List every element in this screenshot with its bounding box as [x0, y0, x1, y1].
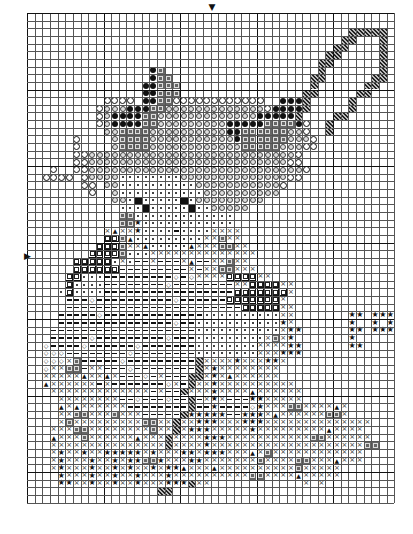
stitch-dash	[203, 304, 211, 312]
stitch-dash	[149, 296, 157, 304]
stitch-dark-square	[218, 235, 226, 243]
stitch-dash	[218, 304, 226, 312]
stitch-dash	[157, 258, 165, 266]
stitch-dash	[165, 265, 173, 273]
stitch-cross	[218, 396, 226, 404]
stitch-gray-circle	[188, 166, 196, 174]
stitch-dot-square	[88, 273, 96, 281]
stitch-dot-square	[195, 204, 203, 212]
stitch-gray-circle	[211, 189, 219, 197]
stitch-dark-square	[264, 120, 272, 128]
stitch-dash	[157, 357, 165, 365]
stitch-dark-square	[272, 135, 280, 143]
stitch-cross	[50, 388, 58, 396]
stitch-gray-circle	[180, 105, 188, 113]
stitch-dash	[157, 350, 165, 358]
stitch-open-circle	[73, 143, 81, 151]
stitch-gray-circle	[180, 135, 188, 143]
grid-line-vertical	[394, 13, 395, 503]
grid-line-horizontal	[27, 373, 394, 374]
stitch-gray-circle	[241, 151, 249, 159]
stitch-dark-square	[287, 120, 295, 128]
stitch-dash	[134, 304, 142, 312]
stitch-open-circle	[81, 174, 89, 182]
stitch-diamond	[165, 281, 173, 289]
stitch-dot-square	[134, 189, 142, 197]
stitch-dark-square	[126, 212, 134, 220]
stitch-dark-square	[172, 90, 180, 98]
stitch-dash	[172, 365, 180, 373]
stitch-cross	[257, 449, 265, 457]
grid-line-horizontal	[27, 250, 394, 251]
stitch-cross	[249, 441, 257, 449]
stitch-dash	[172, 288, 180, 296]
stitch-hatched	[157, 487, 165, 495]
stitch-gray-circle	[172, 128, 180, 136]
stitch-dash	[96, 334, 104, 342]
stitch-dash	[104, 296, 112, 304]
stitch-dot-square	[165, 189, 173, 197]
stitch-dash	[119, 342, 127, 350]
stitch-dash	[172, 327, 180, 335]
stitch-gray-circle	[104, 158, 112, 166]
stitch-dot-square	[81, 288, 89, 296]
stitch-hatched	[333, 51, 341, 59]
stitch-dot-square	[195, 350, 203, 358]
stitch-dash	[172, 304, 180, 312]
stitch-cross	[279, 281, 287, 289]
stitch-dash	[126, 288, 134, 296]
stitch-dash	[65, 304, 73, 312]
stitch-dark-square	[119, 212, 127, 220]
stitch-filled-black-circle	[287, 112, 295, 120]
stitch-gray-circle	[111, 158, 119, 166]
stitch-gray-circle	[172, 105, 180, 113]
stitch-dot-square	[180, 235, 188, 243]
stitch-dash	[111, 281, 119, 289]
stitch-dark-square	[119, 143, 127, 151]
stitch-cross	[195, 250, 203, 258]
stitch-open-circle	[104, 97, 112, 105]
stitch-dash	[218, 281, 226, 289]
stitch-dot-square	[81, 281, 89, 289]
stitch-gray-circle	[211, 105, 219, 113]
stitch-gray-circle	[218, 120, 226, 128]
stitch-dash	[234, 396, 242, 404]
stitch-dot-square	[234, 311, 242, 319]
stitch-gray-circle	[249, 105, 257, 113]
stitch-gray-circle	[188, 135, 196, 143]
stitch-dot-square	[172, 174, 180, 182]
stitch-dash	[81, 319, 89, 327]
grid-line-horizontal	[27, 120, 394, 121]
stitch-dash	[165, 357, 173, 365]
stitch-dot-square	[96, 281, 104, 289]
stitch-star	[249, 396, 257, 404]
stitch-dash	[165, 258, 173, 266]
stitch-dark-square	[126, 135, 134, 143]
grid-line-horizontal	[27, 28, 394, 29]
stitch-dash	[81, 296, 89, 304]
stitch-cross	[157, 250, 165, 258]
stitch-hatched	[364, 28, 372, 36]
stitch-dark-square	[264, 135, 272, 143]
stitch-dash	[195, 258, 203, 266]
stitch-dash	[104, 281, 112, 289]
stitch-dot-square	[119, 174, 127, 182]
stitch-dash	[142, 342, 150, 350]
grid-line-horizontal	[27, 204, 394, 205]
stitch-gray-circle	[157, 128, 165, 136]
stitch-cross	[241, 388, 249, 396]
grid-line-horizontal	[27, 128, 394, 129]
stitch-cross	[73, 480, 81, 488]
stitch-dark-square	[295, 457, 303, 465]
stitch-dash	[126, 327, 134, 335]
stitch-open-circle	[73, 135, 81, 143]
stitch-dash	[134, 357, 142, 365]
stitch-dark-square	[119, 243, 127, 251]
stitch-gray-circle	[104, 174, 112, 182]
stitch-outlined-square	[104, 258, 112, 266]
stitch-gray-circle	[195, 143, 203, 151]
stitch-hatched	[165, 434, 173, 442]
stitch-cross	[226, 250, 234, 258]
center-marker-left-icon: ▶	[24, 252, 31, 261]
stitch-filled-black-circle	[119, 120, 127, 128]
